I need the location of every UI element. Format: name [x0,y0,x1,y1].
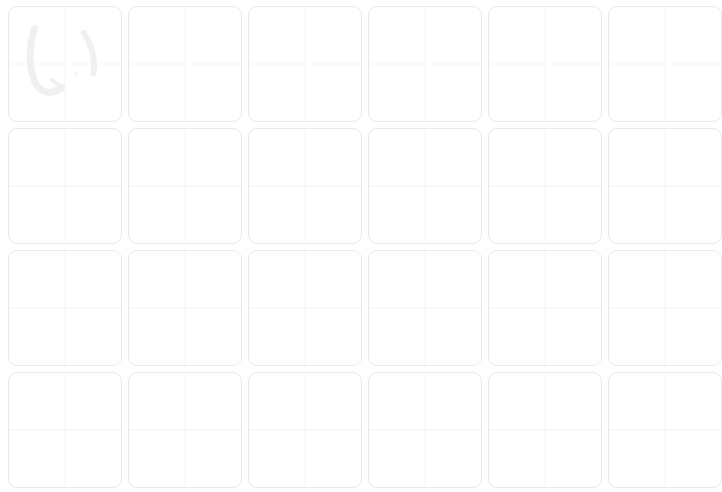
practice-cell[interactable]: い [8,6,122,122]
practice-cell[interactable] [608,250,722,366]
kana-stroke-1-tail [52,80,63,88]
practice-cell[interactable] [128,250,242,366]
cell-guide-vertical [305,373,306,487]
cell-guide-horizontal [609,430,721,431]
cell-guide-vertical [425,7,426,121]
cell-guide-vertical [65,129,66,243]
cell-guide-horizontal [369,186,481,187]
practice-cell[interactable] [8,250,122,366]
cell-guide-vertical [665,373,666,487]
practice-cell[interactable] [8,372,122,488]
cell-guide-vertical [425,129,426,243]
cell-guide-horizontal [129,64,241,65]
kana-stroke-2 [84,33,94,74]
cell-guide-vertical [65,373,66,487]
practice-cell[interactable] [488,250,602,366]
cell-guide-vertical [425,251,426,365]
cell-guide-horizontal [9,186,121,187]
practice-cell[interactable] [368,128,482,244]
cell-guide-vertical [545,373,546,487]
cell-guide-vertical [305,129,306,243]
practice-cell[interactable] [128,6,242,122]
practice-cell[interactable] [488,372,602,488]
cell-guide-vertical [305,7,306,121]
cell-guide-horizontal [489,186,601,187]
practice-cell[interactable] [8,128,122,244]
practice-cell[interactable] [248,6,362,122]
cell-guide-horizontal [609,64,721,65]
cell-guide-vertical [185,129,186,243]
cell-guide-vertical [425,373,426,487]
practice-cell[interactable] [368,250,482,366]
cell-guide-horizontal [129,186,241,187]
kana-ink-dot [74,72,78,76]
practice-cell[interactable] [608,6,722,122]
practice-cell[interactable] [368,6,482,122]
cell-guide-horizontal [369,64,481,65]
practice-grid: い [8,6,722,488]
cell-guide-horizontal [129,308,241,309]
cell-guide-vertical [665,129,666,243]
cell-guide-horizontal [609,186,721,187]
cell-guide-vertical [305,251,306,365]
cell-guide-vertical [545,129,546,243]
practice-cell[interactable] [248,372,362,488]
practice-cell[interactable] [128,128,242,244]
cell-guide-vertical [545,251,546,365]
cell-guide-horizontal [9,430,121,431]
practice-cell[interactable] [608,372,722,488]
cell-guide-horizontal [129,430,241,431]
cell-guide-horizontal [489,64,601,65]
cell-guide-vertical [665,7,666,121]
cell-guide-horizontal [609,308,721,309]
practice-cell[interactable] [248,128,362,244]
cell-guide-horizontal [489,308,601,309]
cell-guide-vertical [545,7,546,121]
practice-cell[interactable] [488,128,602,244]
cell-guide-vertical [65,251,66,365]
cell-guide-vertical [185,251,186,365]
practice-cell[interactable] [248,250,362,366]
cell-guide-vertical [665,251,666,365]
cell-guide-horizontal [9,308,121,309]
practice-cell[interactable] [368,372,482,488]
cell-guide-horizontal [249,64,361,65]
kana-glyph-guide: い [9,7,121,121]
practice-cell[interactable] [488,6,602,122]
cell-guide-vertical [185,7,186,121]
cell-guide-horizontal [249,308,361,309]
cell-guide-horizontal [489,430,601,431]
cell-guide-horizontal [249,430,361,431]
practice-cell[interactable] [128,372,242,488]
cell-guide-horizontal [369,430,481,431]
cell-guide-horizontal [369,308,481,309]
practice-cell[interactable] [608,128,722,244]
cell-guide-horizontal [249,186,361,187]
cell-guide-vertical [185,373,186,487]
